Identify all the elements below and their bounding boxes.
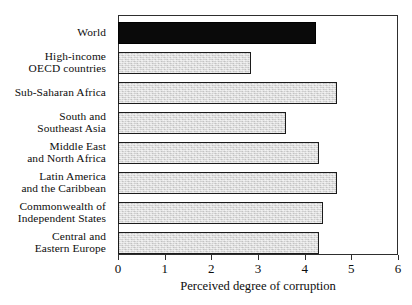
category-label-line: Southeast Asia xyxy=(0,122,106,134)
category-label-4: Middle Eastand North Africa xyxy=(0,140,106,165)
x-tick-label-3: 3 xyxy=(246,261,270,276)
category-label-3: South andSoutheast Asia xyxy=(0,110,106,135)
bars-layer xyxy=(118,15,398,255)
x-tick-label-0: 0 xyxy=(106,261,130,276)
x-tick-5 xyxy=(351,255,352,260)
bar-2 xyxy=(118,82,337,104)
category-axis: WorldHigh-incomeOECD countriesSub-Sahara… xyxy=(0,15,112,255)
bar-3 xyxy=(118,112,286,134)
bar-7 xyxy=(118,232,319,254)
category-label-line: Central and xyxy=(0,230,106,242)
smallcaps-acronym: OECD xyxy=(29,62,61,74)
category-label-line: World xyxy=(0,26,106,38)
x-tick-0 xyxy=(118,255,119,260)
x-tick-label-6: 6 xyxy=(386,261,410,276)
category-label-6: Commonwealth ofIndependent States xyxy=(0,200,106,225)
category-label-line: and North Africa xyxy=(0,152,106,164)
category-label-line: and the Caribbean xyxy=(0,182,106,194)
category-label-line: Middle East xyxy=(0,140,106,152)
category-label-line: Independent States xyxy=(0,212,106,224)
x-tick-3 xyxy=(258,255,259,260)
category-label-line: Sub-Saharan Africa xyxy=(0,86,106,98)
category-label-0: World xyxy=(0,26,106,38)
x-axis-title: Perceived degree of corruption xyxy=(118,279,398,294)
category-label-2: Sub-Saharan Africa xyxy=(0,86,106,98)
bar-5 xyxy=(118,172,337,194)
category-label-7: Central andEastern Europe xyxy=(0,230,106,255)
x-tick-1 xyxy=(165,255,166,260)
x-tick-label-5: 5 xyxy=(339,261,363,276)
x-tick-4 xyxy=(305,255,306,260)
x-tick-2 xyxy=(211,255,212,260)
category-label-line: High-income xyxy=(0,50,106,62)
category-label-line: South and xyxy=(0,110,106,122)
bar-0 xyxy=(118,22,316,44)
category-label-5: Latin Americaand the Caribbean xyxy=(0,170,106,195)
x-tick-6 xyxy=(398,255,399,260)
x-tick-label-2: 2 xyxy=(199,261,223,276)
category-label-1: High-incomeOECD countries xyxy=(0,50,106,75)
category-label-line: Eastern Europe xyxy=(0,242,106,254)
x-tick-label-4: 4 xyxy=(293,261,317,276)
bar-1 xyxy=(118,52,251,74)
x-tick-label-1: 1 xyxy=(153,261,177,276)
bar-4 xyxy=(118,142,319,164)
category-label-line: Commonwealth of xyxy=(0,200,106,212)
category-label-line: Latin America xyxy=(0,170,106,182)
bar-6 xyxy=(118,202,323,224)
category-label-line: OECD countries xyxy=(0,62,106,74)
bar-chart-figure: WorldHigh-incomeOECD countriesSub-Sahara… xyxy=(0,0,412,305)
